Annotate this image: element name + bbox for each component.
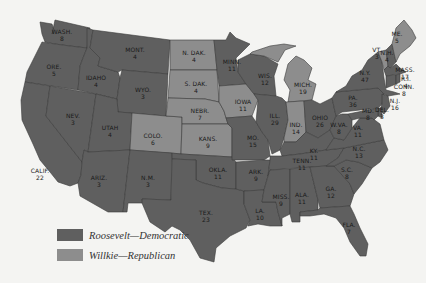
- state-shape-ariz: [78, 150, 130, 212]
- legend-swatch-willkie: [57, 249, 83, 261]
- state-label: LA.10: [255, 207, 265, 221]
- legend-label-roosevelt: Roosevelt—Democratic: [89, 230, 189, 241]
- legend-swatch-roosevelt: [57, 229, 83, 241]
- state-label: GA.12: [326, 185, 337, 199]
- state-label: VA.11: [353, 124, 363, 138]
- state-label: PA.36: [348, 94, 357, 108]
- state-label: CALIF.22: [31, 167, 49, 181]
- state-label: N.Y.47: [359, 69, 370, 83]
- legend-label-willkie: Willkie—Republican: [89, 250, 175, 261]
- legend-willkie: Willkie—Republican: [57, 248, 237, 262]
- state-label: CONN.8: [394, 83, 414, 97]
- state-shapes: [21, 20, 416, 262]
- state-label: ILL.29: [270, 112, 281, 126]
- legend-roosevelt: Roosevelt—Democratic: [57, 228, 237, 242]
- state-shape-fla: [300, 206, 368, 256]
- state-label: N.J.16: [390, 97, 400, 111]
- state-shape-mich-lower: [284, 56, 316, 102]
